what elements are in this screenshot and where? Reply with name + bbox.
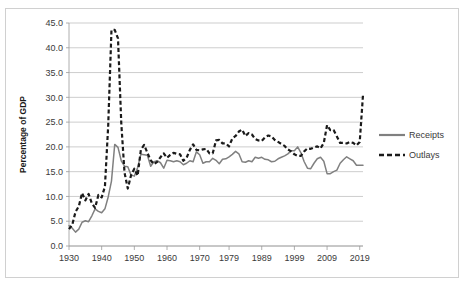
chart-canvas: 0.05.010.015.020.025.030.035.040.045.0 1… <box>6 9 458 277</box>
x-tick-label: 1970 <box>190 253 210 263</box>
axes-group <box>69 23 363 246</box>
x-tick-label: 1940 <box>92 253 112 263</box>
data-series-group <box>69 30 363 232</box>
legend-label-receipts: Receipts <box>409 130 445 140</box>
x-tick-label: 1999 <box>284 253 304 263</box>
chart-frame: 0.05.010.015.020.025.030.035.040.045.0 1… <box>5 8 459 278</box>
y-tick-label: 10.0 <box>45 192 63 202</box>
y-tick-label: 15.0 <box>45 167 63 177</box>
y-tick-label: 20.0 <box>45 142 63 152</box>
y-axis-title: Percentage of GDP <box>18 96 28 173</box>
y-tick-labels-group: 0.05.010.015.020.025.030.035.040.045.0 <box>45 18 63 251</box>
y-tick-label: 40.0 <box>45 43 63 53</box>
y-tick-label: 25.0 <box>45 117 63 127</box>
x-tick-label: 1950 <box>124 253 144 263</box>
series-line-outlays <box>69 30 363 229</box>
chart-legend: ReceiptsOutlays <box>379 130 445 160</box>
y-tick-label: 45.0 <box>45 18 63 28</box>
x-tick-label: 2009 <box>317 253 337 263</box>
x-tick-label: 2019 <box>350 253 370 263</box>
y-tick-label: 35.0 <box>45 68 63 78</box>
x-tick-label: 1930 <box>59 253 79 263</box>
x-tick-label: 1979 <box>219 253 239 263</box>
y-tick-label: 5.0 <box>50 216 63 226</box>
y-tick-label: 0.0 <box>50 241 63 251</box>
x-tick-label: 1989 <box>252 253 272 263</box>
series-line-receipts <box>69 144 363 232</box>
y-axis-title-group: Percentage of GDP <box>18 96 28 173</box>
x-tick-labels-group: 1930194019501960197019791989199920092019 <box>59 253 370 263</box>
y-tick-label: 30.0 <box>45 93 63 103</box>
legend-label-outlays: Outlays <box>409 150 440 160</box>
x-tick-label: 1960 <box>157 253 177 263</box>
gridlines-group <box>69 23 363 246</box>
